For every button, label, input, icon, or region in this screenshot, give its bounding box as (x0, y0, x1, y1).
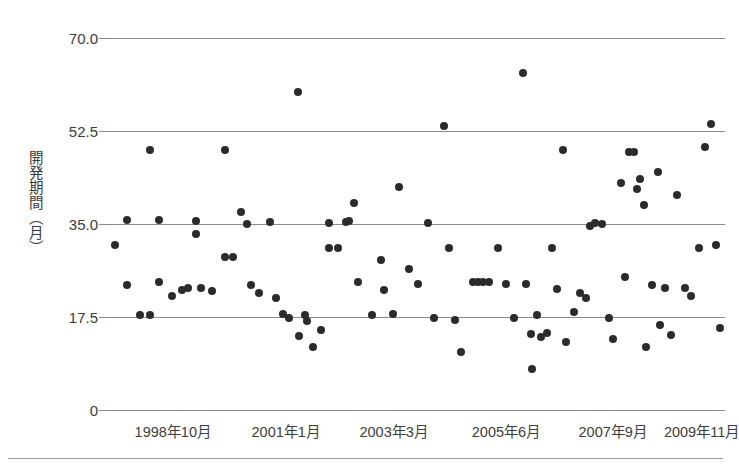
data-point (221, 253, 229, 261)
data-point (168, 292, 176, 300)
data-point (519, 69, 527, 77)
data-point (605, 314, 613, 322)
data-point (377, 256, 385, 264)
data-point (303, 317, 311, 325)
y-tick-label-52.5: 52.5 (40, 123, 98, 140)
data-point (184, 284, 192, 292)
data-point (345, 217, 353, 225)
data-point (707, 120, 715, 128)
data-point (414, 280, 422, 288)
data-point (192, 230, 200, 238)
data-point (395, 183, 403, 191)
data-point (562, 338, 570, 346)
data-point (559, 146, 567, 154)
data-point (440, 122, 448, 130)
data-point (548, 244, 556, 252)
data-point (570, 308, 578, 316)
data-point (617, 179, 625, 187)
x-tick-label-3: 2005年6月 (472, 420, 540, 441)
gridline-17.5 (108, 317, 725, 318)
data-point (654, 168, 662, 176)
gridline-70.0 (108, 38, 725, 39)
data-point (380, 286, 388, 294)
data-point (502, 280, 510, 288)
data-point (285, 314, 293, 322)
gridline-35.0 (108, 224, 725, 225)
y-tick-mark-70.0 (99, 38, 108, 39)
data-point (630, 148, 638, 156)
data-point (255, 289, 263, 297)
data-point (294, 88, 302, 96)
x-tick-label-2: 2003年3月 (359, 420, 427, 441)
data-point (266, 218, 274, 226)
y-tick-label-35.0: 35.0 (40, 216, 98, 233)
y-tick-mark-17.5 (99, 317, 108, 318)
y-tick-label-70.0: 70.0 (40, 30, 98, 47)
data-point (334, 244, 342, 252)
data-point (309, 343, 317, 351)
data-point (405, 265, 413, 273)
data-point (640, 201, 648, 209)
data-point (123, 281, 131, 289)
data-point (621, 273, 629, 281)
data-point (633, 185, 641, 193)
data-point (609, 335, 617, 343)
data-point (325, 244, 333, 252)
data-point (325, 219, 333, 227)
data-point (350, 199, 358, 207)
y-tick-mark-0 (99, 410, 108, 411)
data-point (197, 284, 205, 292)
y-tick-mark-52.5 (99, 131, 108, 132)
data-point (522, 280, 530, 288)
data-point (208, 287, 216, 295)
x-tick-label-0: 1998年10月 (135, 420, 211, 441)
data-point (457, 348, 465, 356)
data-point (681, 284, 689, 292)
data-point (485, 278, 493, 286)
data-point (543, 329, 551, 337)
data-point (221, 146, 229, 154)
gridline-0 (108, 410, 725, 411)
data-point (146, 146, 154, 154)
x-tick-label-4: 2007年9月 (579, 420, 647, 441)
data-point (317, 326, 325, 334)
data-point (368, 311, 376, 319)
data-point (430, 314, 438, 322)
data-point (243, 220, 251, 228)
data-point (656, 321, 664, 329)
x-tick-label-5: 2009年11月 (664, 420, 739, 441)
data-point (582, 294, 590, 302)
data-point (667, 331, 675, 339)
bottom-rule (8, 458, 723, 459)
x-tick-label-1: 2001年1月 (252, 420, 320, 441)
data-point (648, 281, 656, 289)
data-point (123, 216, 131, 224)
data-point (494, 244, 502, 252)
data-point (354, 278, 362, 286)
data-point (661, 284, 669, 292)
data-point (136, 311, 144, 319)
y-tick-label-0: 0 (40, 402, 98, 419)
data-point (155, 216, 163, 224)
y-axis-tick-labels: 017.535.052.570.0 (40, 0, 98, 470)
data-point (451, 316, 459, 324)
data-point (247, 281, 255, 289)
data-point (229, 253, 237, 261)
data-point (272, 294, 280, 302)
data-point (192, 217, 200, 225)
data-point (510, 314, 518, 322)
data-point (687, 292, 695, 300)
data-point (716, 324, 724, 332)
data-point (673, 191, 681, 199)
data-point (528, 365, 536, 373)
data-point (701, 143, 709, 151)
plot-area (108, 38, 725, 410)
x-axis-tick-labels: 1998年10月2001年1月2003年3月2005年6月2007年9月2009… (108, 420, 725, 448)
data-point (533, 311, 541, 319)
data-point (146, 311, 154, 319)
data-point (237, 208, 245, 216)
gridline-52.5 (108, 131, 725, 132)
data-point (695, 244, 703, 252)
data-point (295, 332, 303, 340)
data-point (424, 219, 432, 227)
